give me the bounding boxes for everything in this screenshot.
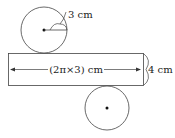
radius-brace xyxy=(50,12,67,30)
cylinder-net-diagram: 3 cm (2π×3) cm 4 cm xyxy=(0,0,175,138)
left-arrowhead-icon xyxy=(10,68,15,72)
bottom-center-dot xyxy=(106,107,109,110)
radius-label: 3 cm xyxy=(68,9,93,20)
width-label: (2π×3) cm xyxy=(49,64,103,75)
height-label: 4 cm xyxy=(148,64,173,75)
right-arrowhead-icon xyxy=(136,68,141,72)
